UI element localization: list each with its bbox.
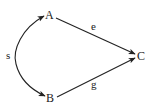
edge-s-label: s xyxy=(6,49,10,61)
node-b: B xyxy=(46,91,54,105)
node-c: C xyxy=(137,49,145,63)
edge-e: e xyxy=(56,18,135,54)
edge-g: g xyxy=(57,58,135,97)
graph-diagram: e g s A B C xyxy=(0,0,154,109)
edge-g-label: g xyxy=(91,78,97,90)
edge-e-label: e xyxy=(91,20,96,32)
node-a: A xyxy=(45,8,54,22)
edge-s: s xyxy=(6,16,45,96)
